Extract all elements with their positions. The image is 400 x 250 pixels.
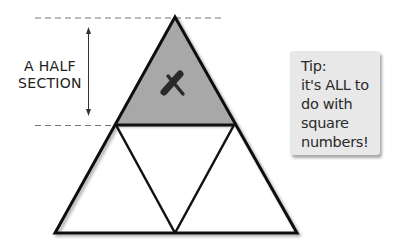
tip-text: Tip: it's ALL to do with square numbers!: [301, 57, 378, 152]
inner-right-diagonal: [175, 125, 234, 233]
half-section-label-line1: A HALF: [0, 58, 100, 75]
half-section-label-line2: SECTION: [0, 75, 100, 92]
inner-left-diagonal: [116, 125, 175, 233]
tip-note: Tip: it's ALL to do with square numbers!: [290, 51, 380, 155]
shaded-half-section: [116, 17, 234, 125]
